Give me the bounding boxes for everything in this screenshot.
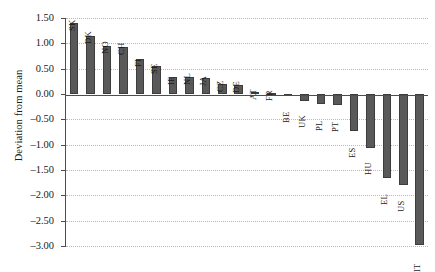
bar-category-label: IE xyxy=(166,77,176,86)
bar-category-label: FI xyxy=(133,58,143,66)
bar-group[interactable]: AT xyxy=(247,18,263,246)
gridline xyxy=(66,246,428,247)
bar-group[interactable]: HU xyxy=(362,18,378,246)
y-axis-tick-label: 0.00 xyxy=(14,89,54,100)
bar-group[interactable]: NL xyxy=(181,18,197,246)
bar[interactable] xyxy=(333,94,342,105)
y-axis-tick xyxy=(61,246,66,247)
bar[interactable] xyxy=(70,23,79,94)
zero-baseline xyxy=(65,95,428,96)
bar-group[interactable]: ES xyxy=(346,18,362,246)
bar-category-label: CZ xyxy=(215,80,225,91)
bar-category-label: BE xyxy=(281,111,291,122)
bar-series: SKDKNOCHFISEIENLJACZDEATFRBEUKPLPTESHUEL… xyxy=(66,18,428,246)
y-axis-tick-label: –2.50 xyxy=(14,216,54,227)
bar-group[interactable]: IT xyxy=(412,18,428,246)
bar[interactable] xyxy=(383,94,392,178)
bar-group[interactable]: PL xyxy=(313,18,329,246)
bar-group[interactable]: NO xyxy=(99,18,115,246)
bar-category-label: CH xyxy=(116,43,126,55)
bar-category-label: EL xyxy=(379,194,389,205)
bar[interactable] xyxy=(415,94,424,245)
bar-group[interactable]: BE xyxy=(280,18,296,246)
bar-group[interactable]: CZ xyxy=(214,18,230,246)
bar-category-label: NL xyxy=(182,73,192,85)
y-axis-tick-label: –1.50 xyxy=(14,165,54,176)
bar-group[interactable]: DE xyxy=(231,18,247,246)
bar-category-label: ES xyxy=(347,148,357,158)
bar[interactable] xyxy=(350,94,359,131)
bar-group[interactable]: CH xyxy=(115,18,131,246)
y-axis-tick-label: –0.50 xyxy=(14,114,54,125)
bar-group[interactable]: PT xyxy=(329,18,345,246)
bar-category-label: PT xyxy=(330,122,340,132)
bar-category-label: UK xyxy=(297,115,307,128)
bar-category-label: IT xyxy=(412,263,422,272)
bar-category-label: SE xyxy=(149,64,159,74)
y-axis-tick-label: –2.00 xyxy=(14,190,54,201)
y-axis-tick-label: –1.00 xyxy=(14,140,54,151)
bar-group[interactable]: IE xyxy=(165,18,181,246)
bar-group[interactable]: DK xyxy=(82,18,98,246)
bar-category-label: FR xyxy=(264,91,274,102)
bar-group[interactable]: EL xyxy=(379,18,395,246)
bar-group[interactable]: SE xyxy=(148,18,164,246)
y-axis-tick-label: 1.00 xyxy=(14,38,54,49)
bar-group[interactable]: SK xyxy=(66,18,82,246)
bar-category-label: HU xyxy=(363,162,373,175)
bar-group[interactable]: JA xyxy=(198,18,214,246)
bar-category-label: DE xyxy=(231,81,241,93)
bar-category-label: SK xyxy=(67,20,77,31)
bar-category-label: DK xyxy=(83,31,93,44)
y-axis-tick-label: 1.50 xyxy=(14,13,54,24)
y-axis-tick-label: 0.50 xyxy=(14,64,54,75)
bar[interactable] xyxy=(366,94,375,148)
plot-area: 1.501.000.500.00–0.50–1.00–1.50–2.00–2.5… xyxy=(66,18,428,246)
bar-group[interactable]: UK xyxy=(296,18,312,246)
bar-category-label: JA xyxy=(198,76,208,86)
bar[interactable] xyxy=(317,94,326,104)
bar-group[interactable]: FI xyxy=(132,18,148,246)
y-axis-tick-label: –3.00 xyxy=(14,241,54,252)
bar[interactable] xyxy=(399,94,408,185)
bar-group[interactable]: FR xyxy=(263,18,279,246)
bar-group[interactable]: US xyxy=(395,18,411,246)
bar-category-label: NO xyxy=(100,42,110,55)
bar-category-label: PL xyxy=(314,121,324,131)
bar[interactable] xyxy=(86,36,95,94)
bar-category-label: US xyxy=(396,200,406,211)
